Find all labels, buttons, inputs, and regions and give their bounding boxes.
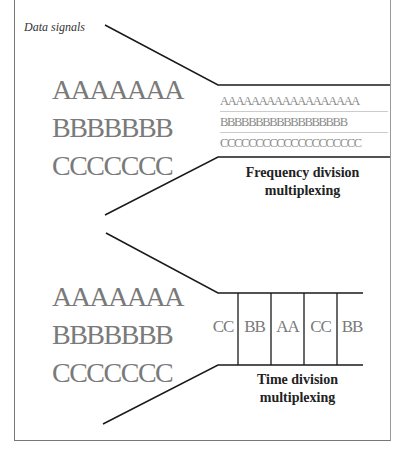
fdm-channel-b: BBBBBBBBBBBBBBBBBB [220,116,347,129]
tdm-input-signal-c: CCCCCCC [52,359,172,387]
fdm-channel-a: AAAAAAAAAAAAAAAAAA [220,95,359,108]
tdm-label-line2: multiplexing [225,389,370,407]
tdm-label-line1: Time division [225,371,370,389]
fdm-input-signal-c: CCCCCCC [52,152,172,180]
fdm-label-line1: Frequency division [215,164,390,182]
data-signals-caption: Data signals [24,20,85,35]
fdm-channel-separator [220,111,388,112]
tdm-label: Time division multiplexing [225,371,370,407]
fdm-input-signal-a: AAAAAAA [52,76,183,104]
tdm-slot-3: AA [271,318,304,335]
tdm-input-signal-b: BBBBBBB [52,321,172,349]
tdm-slot-1: CC [208,318,238,335]
fdm-label-line2: multiplexing [215,182,390,200]
tdm-slot-5: BB [337,318,367,335]
tdm-slot-2: BB [238,318,271,335]
tdm-slot-4: CC [304,318,337,335]
fdm-input-signal-b: BBBBBBB [52,114,172,142]
tdm-input-signal-a: AAAAAAA [52,283,183,311]
fdm-channel-c: CCCCCCCCCCCCCCCCCCCC [220,137,361,150]
fdm-channel-separator [220,132,388,133]
fdm-label: Frequency division multiplexing [215,164,390,200]
